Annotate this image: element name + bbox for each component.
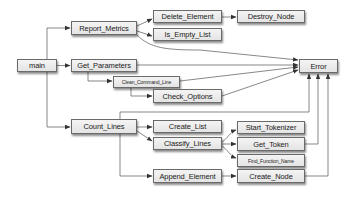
node-is-empty-list[interactable]: Is_Empty_List [153,28,222,41]
node-label: Clean_Command_Line [122,79,171,85]
node-label: Is_Empty_List [165,30,211,39]
edge-main-report-metrics [47,28,70,59]
edge-check-options-error [222,70,298,96]
node-label: Create_Node [249,172,293,181]
edge-report-metrics-is-empty-list [137,31,152,36]
edge-classify-lines-find-function-name [222,146,236,158]
node-label: Error [310,62,326,71]
node-label: Classify_Lines [164,139,211,148]
node-create-node[interactable]: Create_Node [237,169,305,183]
node-report-metrics[interactable]: Report_Metrics [71,21,137,35]
edge-classify-lines-start-tokenizer [222,130,236,142]
node-get-token[interactable]: Get_Token [237,137,305,151]
node-label: Check_Options [163,92,213,101]
edge-get-token-error [305,74,318,144]
call-graph-diagram: main Report_Metrics Get_Parameters Clean… [0,0,352,197]
node-destroy-node[interactable]: Destroy_Node [237,10,305,23]
edge-clean-command-line-error [180,67,298,81]
node-delete-element[interactable]: Delete_Element [153,10,222,23]
node-label: Create_List [169,122,206,131]
node-clean-command-line[interactable]: Clean_Command_Line [113,76,180,88]
node-error[interactable]: Error [299,59,338,73]
edge-count-lines-classify-lines [137,131,152,141]
node-start-tokenizer[interactable]: Start_Tokenizer [237,121,305,134]
node-label: Destroy_Node [248,12,295,21]
edge-main-count-lines [47,72,70,127]
node-label: Delete_Element [162,12,214,21]
node-get-parameters[interactable]: Get_Parameters [71,59,137,72]
edge-count-lines-append-element [120,134,152,176]
node-classify-lines[interactable]: Classify_Lines [153,137,222,150]
node-label: Start_Tokenizer [246,123,297,132]
node-label: Report_Metrics [79,24,128,33]
edge-report-metrics-delete-element [137,19,152,26]
node-append-element[interactable]: Append_Element [153,169,222,183]
edge-create-node-error [305,74,328,176]
node-check-options[interactable]: Check_Options [153,89,222,103]
node-label: main [29,61,45,70]
node-label: Get_Token [253,140,288,149]
node-count-lines[interactable]: Count_Lines [71,119,137,134]
node-label: Get_Parameters [77,61,131,70]
node-label: Find_Function_Name [248,158,294,164]
node-find-function-name[interactable]: Find_Function_Name [237,154,305,167]
edge-clean-command-line-check-options [131,88,152,96]
node-create-list[interactable]: Create_List [153,120,222,133]
node-label: Append_Element [159,172,215,181]
edge-get-parameters-clean-command-line [88,72,112,81]
node-main[interactable]: main [17,59,57,72]
node-label: Count_Lines [83,122,124,131]
